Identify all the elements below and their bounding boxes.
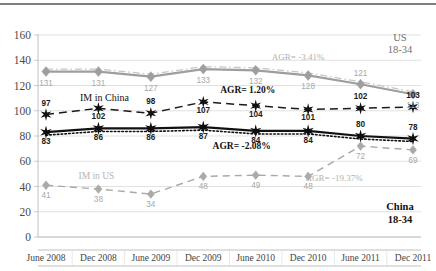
y-axis-labels: 020406080100120140160: [14, 29, 32, 243]
data-label-im-us: 48: [304, 182, 314, 191]
data-marker: [145, 107, 156, 119]
data-label-us: 121: [354, 69, 368, 78]
data-label-im-china: 107: [196, 106, 210, 115]
data-marker: [42, 181, 49, 190]
data-marker: [200, 172, 207, 181]
annotation-agr-us: AGR= -3.41%: [272, 52, 325, 62]
data-label-china: 86: [94, 133, 104, 142]
y-axis-tick-label: 20: [20, 206, 32, 218]
y-axis-tick-label: 40: [20, 181, 32, 193]
data-marker: [95, 185, 102, 194]
data-label-im-china: 102: [92, 112, 106, 121]
annotation-agr-im-china: AGR= 1.20%: [220, 85, 275, 95]
data-label-us: 128: [301, 82, 315, 91]
data-label-im-us: 34: [146, 200, 156, 209]
data-label-us: 127: [144, 84, 158, 93]
data-label-china: 86: [146, 133, 156, 142]
data-label-im-china: 103: [406, 91, 420, 100]
data-marker: [252, 171, 259, 180]
data-label-china: 83: [41, 137, 51, 146]
data-marker: [252, 65, 260, 75]
corner-label-us-line1: US: [393, 32, 407, 43]
y-axis-tick-label: 120: [14, 80, 32, 92]
data-marker: [94, 67, 102, 77]
data-label-im-china: 101: [301, 113, 315, 122]
x-axis-tick-label: June 2009: [131, 253, 170, 263]
chart-container: 020406080100120140160 131131127133132128…: [0, 0, 436, 271]
x-axis-tick-label: June 2008: [27, 253, 66, 263]
data-marker: [42, 67, 50, 77]
x-axis-tick-label: Dec 2009: [185, 253, 222, 263]
data-label-im-us: 41: [41, 191, 51, 200]
data-label-us: 133: [196, 76, 210, 85]
data-label-im-china: 97: [41, 99, 51, 108]
annotation-agr-china: AGR= -2.08%: [213, 141, 271, 151]
x-axis-tick-label: Dec 2008: [80, 253, 117, 263]
data-marker: [199, 64, 207, 74]
data-label-china: 80: [356, 120, 366, 129]
y-axis-tick-label: 80: [20, 130, 32, 142]
data-marker: [147, 190, 154, 199]
corner-label-china-line1: China: [386, 201, 414, 212]
series-label-im-china: IM in China: [80, 92, 129, 103]
x-axis-labels: June 2008Dec 2008June 2009Dec 2009June 2…: [27, 250, 432, 266]
annotation-agr-im-us: AGR= -19.37%: [306, 173, 364, 183]
data-marker: [356, 79, 364, 89]
data-label-im-china: 104: [249, 110, 263, 119]
data-label-china: 87: [199, 132, 209, 141]
line-chart: 020406080100120140160 131131127133132128…: [0, 0, 436, 271]
x-axis-tick-label: Dec 2010: [290, 253, 327, 263]
data-label-china: 78: [408, 123, 418, 132]
data-label-im-us: 49: [251, 181, 261, 190]
x-axis-tick-label: Dec 2011: [395, 253, 432, 263]
y-axis-tick-label: 60: [20, 155, 32, 167]
data-label-us: 131: [39, 79, 53, 88]
y-axis-tick-label: 160: [14, 29, 32, 41]
data-label-us: 113: [406, 101, 419, 110]
x-axis-tick-label: June 2011: [341, 253, 380, 263]
y-axis-tick-label: 140: [14, 54, 32, 66]
series-label-im-us: IM in US: [78, 171, 114, 181]
data-marker: [357, 142, 364, 151]
data-label-im-china: 102: [354, 92, 368, 101]
data-label-im-us: 38: [94, 195, 104, 204]
y-axis-tick-label: 0: [25, 231, 31, 243]
data-label-china: 84: [304, 136, 314, 145]
corner-label-china-line2: 18-34: [388, 214, 413, 225]
data-marker: [304, 70, 312, 80]
data-marker: [409, 145, 416, 154]
data-label-im-china: 98: [146, 97, 156, 106]
data-label-im-us: 69: [408, 156, 418, 165]
data-label-us: 131: [92, 79, 106, 88]
data-label-im-us: 48: [199, 182, 209, 191]
data-label-im-us: 72: [356, 152, 366, 161]
y-axis-tick-label: 100: [14, 105, 32, 117]
corner-label-us-line2: 18-34: [388, 44, 413, 55]
x-axis-tick-label: June 2010: [236, 253, 275, 263]
